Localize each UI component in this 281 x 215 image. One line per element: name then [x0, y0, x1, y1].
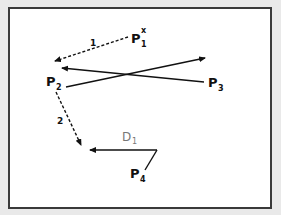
label-d1: D 1	[122, 130, 137, 146]
arrow-p2-to-right	[66, 58, 205, 87]
line-p4	[145, 150, 157, 170]
label-p1x: P x 1	[131, 26, 147, 49]
dashed-arrow-1-label: 1	[90, 38, 96, 48]
svg-text:2: 2	[56, 83, 62, 92]
svg-text:1: 1	[141, 40, 147, 49]
svg-text:4: 4	[140, 175, 146, 184]
label-p3: P 3	[208, 75, 224, 93]
arrow-p3-to-p2	[62, 68, 204, 82]
svg-text:P: P	[131, 31, 141, 46]
svg-text:D: D	[122, 130, 131, 144]
svg-text:x: x	[141, 26, 147, 35]
svg-text:1: 1	[132, 137, 137, 146]
dashed-arrow-2-label: 2	[57, 116, 63, 126]
svg-text:P: P	[130, 166, 140, 181]
svg-text:3: 3	[218, 84, 224, 93]
label-p4: P 4	[130, 166, 146, 184]
svg-text:P: P	[46, 74, 56, 89]
label-p2: P 2	[46, 74, 62, 92]
svg-text:P: P	[208, 75, 218, 90]
diagram-canvas: 1 P x 1 P 2 P 3 2 D 1 P 4	[0, 0, 281, 215]
